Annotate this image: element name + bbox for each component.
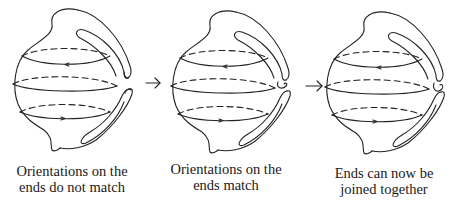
- caption-panel-1-line-1: Orientations on the: [2, 163, 142, 179]
- twisted-tube-end: [278, 82, 287, 88]
- transition-arrow-2: [306, 81, 322, 91]
- panel-1-figure: [13, 9, 132, 151]
- transition-arrow-1: [146, 78, 160, 88]
- panel-3-figure: [325, 12, 444, 154]
- joined-tube-ends: [434, 83, 443, 91]
- panel-2-figure: [171, 11, 290, 153]
- caption-panel-3-line-2: joined together: [322, 181, 446, 197]
- caption-panel-1: Orientations on the ends do not match: [2, 163, 142, 195]
- caption-panel-2-line-2: ends match: [156, 177, 296, 193]
- caption-panel-3-line-1: Ends can now be: [322, 165, 446, 181]
- caption-panel-2: Orientations on the ends match: [156, 161, 296, 193]
- caption-panel-2-line-1: Orientations on the: [156, 161, 296, 177]
- caption-panel-3: Ends can now be joined together: [322, 165, 446, 197]
- caption-panel-1-line-2: ends do not match: [2, 179, 142, 195]
